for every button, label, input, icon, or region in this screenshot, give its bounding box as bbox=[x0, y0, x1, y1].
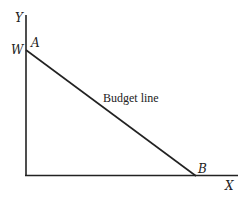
point-b-label: B bbox=[197, 162, 207, 176]
point-w-label: W bbox=[11, 43, 25, 57]
budget-line bbox=[26, 50, 196, 176]
x-axis-label: X bbox=[224, 179, 234, 193]
budget-line-label: Budget line bbox=[103, 91, 159, 105]
point-a-label: A bbox=[30, 36, 40, 50]
budget-line-diagram: Y X W A B Budget line bbox=[0, 0, 250, 198]
y-axis-label: Y bbox=[15, 11, 24, 25]
